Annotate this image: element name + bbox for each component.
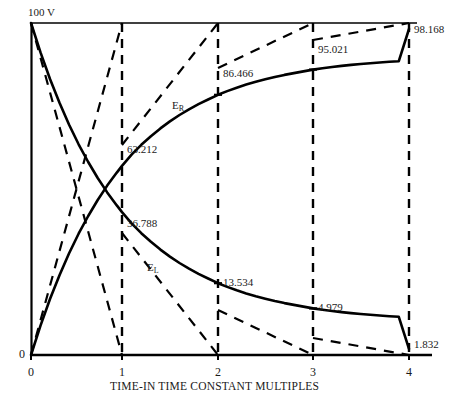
x-tick-label-0: 0 <box>28 366 34 378</box>
data-label-el-t1: 36.788 <box>127 218 157 229</box>
series-label-er: ER <box>172 100 184 111</box>
tangent-er-t3 <box>313 23 409 40</box>
tangent-el-t2 <box>218 310 313 355</box>
series-label-el-sub: L <box>154 266 159 275</box>
series-label-el-base: E <box>147 261 154 273</box>
chart-plot-area <box>0 0 463 401</box>
tangent-el-t3 <box>313 338 409 355</box>
value-ticks-group <box>214 70 317 309</box>
x-tick-label-2: 2 <box>215 366 221 378</box>
x-tick-label-4: 4 <box>406 366 412 378</box>
curve-er <box>31 29 409 355</box>
tangent-er-t1 <box>122 23 218 145</box>
curves-group <box>31 23 409 355</box>
data-label-er-t1: 63.212 <box>127 144 157 155</box>
gridlines-group <box>122 23 409 355</box>
series-label-er-base: E <box>172 99 179 111</box>
data-label-er-t4: 98.168 <box>414 24 444 35</box>
tangent-er-t2 <box>218 23 313 68</box>
series-label-el: EL <box>147 262 159 273</box>
data-label-el-t2: 13.534 <box>223 277 253 288</box>
data-label-er-t2: 86.466 <box>223 68 253 79</box>
tangent-el-t1 <box>122 233 218 355</box>
y-axis-zero-label: 0 <box>19 348 25 360</box>
chart-figure: 100 V 0 0 1 2 3 4 TIME-IN TIME CONSTANT … <box>0 0 463 401</box>
x-tick-label-1: 1 <box>119 366 125 378</box>
data-label-er-t3: 95.021 <box>318 44 348 55</box>
x-axis-title: TIME-IN TIME CONSTANT MULTIPLES <box>110 381 319 393</box>
data-label-el-t4: 1.832 <box>414 339 439 350</box>
x-tick-label-3: 3 <box>310 366 316 378</box>
data-label-el-t3: 4.979 <box>318 302 343 313</box>
tangent-lines-group <box>31 23 409 355</box>
curve-el <box>31 23 409 349</box>
y-axis-max-label: 100 V <box>28 7 55 18</box>
series-label-er-sub: R <box>179 104 184 113</box>
